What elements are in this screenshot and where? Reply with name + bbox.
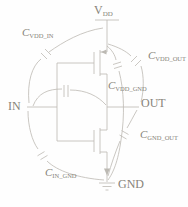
cap-in-gnd-symbol [38,152,48,160]
cap-gnd-out-sub: GND_OUT [147,134,178,141]
wire-cap-in-out-right [70,90,106,105]
branch-cap-gnd-out [108,110,137,176]
vdd-rail [95,20,119,52]
cap-vdd-gnd-symbol [113,62,122,69]
vdd-label: VDD [94,4,113,18]
wire-cap-gnd-out-lower [108,141,120,176]
cap-label-vdd-out: CVDD_OUT [148,50,186,63]
cap-label-gnd-out: CGND_OUT [140,129,178,142]
vdd-label-sub: DD [103,10,113,18]
wire-cap-vdd-gnd-upper [107,46,116,60]
circuit-diagram: VDD CVDD_IN CVDD_OUT CVDD_GND IN OUT CGN… [0,0,188,207]
vdd-label-base: V [94,3,103,17]
cap-vdd-gnd-sub: VDD_GND [115,85,146,92]
ground-symbol-icon [99,183,115,190]
pmos-transistor [57,50,107,76]
cap-in-out-symbol [64,85,68,97]
cap-vdd-in-sub: VDD_IN [29,32,53,39]
branch-cap-vdd-gnd [107,46,123,180]
cap-gnd-out-symbol [120,131,129,140]
cap-vdd-in-symbol [41,49,51,59]
cap-vdd-out-sub: VDD_OUT [155,55,186,62]
cap-label-vdd-gnd: CVDD_GND [108,80,147,93]
out-label: OUT [141,97,166,109]
cap-vdd-out-symbol [131,56,141,66]
wire-cap-vdd-in-upper [49,28,103,52]
wire-cap-gnd-out-upper [127,110,137,128]
cap-label-in-gnd: CIN_GND [45,167,77,180]
branch-cap-in-out [33,85,106,106]
cap-in-gnd-sub: IN_GND [52,172,76,179]
wire-cap-in-gnd-upper [28,111,38,149]
wire-cap-in-out-left [33,89,62,106]
in-label: IN [8,100,21,112]
cap-label-vdd-in: CVDD_IN [22,27,54,40]
gnd-label: GND [118,178,144,190]
pmos-arrow-icon [101,50,107,55]
